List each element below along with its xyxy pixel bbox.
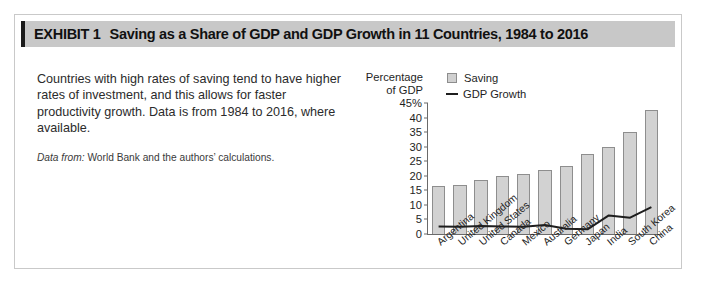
chart-legend: Saving GDP Growth xyxy=(447,71,526,103)
y-axis-title-line-2: of GDP xyxy=(361,84,423,97)
y-tick-label: 40 xyxy=(410,112,422,124)
x-axis-labels: ArgentinaUnited KingdomUnited StatesCana… xyxy=(427,237,661,287)
legend-swatch-icon xyxy=(447,73,457,83)
y-tick-label: 45% xyxy=(400,97,422,109)
y-axis-title-line-1: Percentage xyxy=(361,71,423,84)
x-label-slot: South Korea xyxy=(618,237,639,287)
exhibit-body: Countries with high rates of saving tend… xyxy=(15,53,681,268)
x-label-slot: Germany xyxy=(555,237,576,287)
y-tick-label: 5 xyxy=(416,213,422,225)
y-tick-label: 20 xyxy=(410,170,422,182)
x-label-slot: Canada xyxy=(491,237,512,287)
x-label-slot: China xyxy=(640,237,661,287)
legend-line-icon xyxy=(446,93,458,95)
y-tick-label: 30 xyxy=(410,141,422,153)
legend-label-gdp-growth: GDP Growth xyxy=(463,88,526,100)
legend-item-gdp-growth: GDP Growth xyxy=(447,87,526,101)
source-label: Data from: xyxy=(37,152,85,163)
y-tick-label: 10 xyxy=(410,199,422,211)
y-tick-label: 35 xyxy=(410,126,422,138)
source-text: World Bank and the authors’ calculations… xyxy=(87,152,274,163)
x-label-slot: Mexico xyxy=(512,237,533,287)
exhibit-header-text: EXHIBIT 1 Saving as a Share of GDP and G… xyxy=(25,26,588,42)
x-label-slot: United States xyxy=(470,237,491,287)
exhibit-header-band: EXHIBIT 1 Saving as a Share of GDP and G… xyxy=(21,21,675,47)
y-tick-label: 15 xyxy=(410,184,422,196)
chart: Percentage of GDP Saving GDP Growth 45%4… xyxy=(361,61,667,287)
x-label-slot: Japan xyxy=(576,237,597,287)
x-label-slot: Australia xyxy=(533,237,554,287)
legend-item-saving: Saving xyxy=(447,71,526,85)
y-tick-label: 25 xyxy=(410,155,422,167)
exhibit-panel: EXHIBIT 1 Saving as a Share of GDP and G… xyxy=(14,14,682,269)
x-label-slot: Argentina xyxy=(427,237,448,287)
legend-label-saving: Saving xyxy=(464,72,498,84)
x-label-slot: India xyxy=(597,237,618,287)
y-tick-label: 0 xyxy=(416,228,422,240)
exhibit-title: Saving as a Share of GDP and GDP Growth … xyxy=(110,26,588,42)
source-note: Data from: World Bank and the authors’ c… xyxy=(37,151,349,164)
description-text: Countries with high rates of saving tend… xyxy=(37,71,349,137)
x-label-slot: United Kingdom xyxy=(448,237,469,287)
y-axis-title: Percentage of GDP xyxy=(361,71,423,98)
exhibit-number: EXHIBIT 1 xyxy=(34,26,101,42)
description-block: Countries with high rates of saving tend… xyxy=(37,71,349,164)
